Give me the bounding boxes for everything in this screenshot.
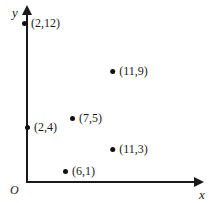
y-axis-line bbox=[26, 14, 28, 183]
data-point-label: (11,9) bbox=[119, 65, 148, 77]
x-axis-label: x bbox=[199, 188, 205, 201]
data-point-marker bbox=[70, 116, 75, 121]
data-point: (11,3) bbox=[110, 143, 148, 155]
data-point: (2,12) bbox=[22, 17, 60, 29]
x-axis-line bbox=[26, 181, 196, 183]
scatter-plot-figure: y x O (2,12) (11,9) (7,5) (2,4) (11,3) (… bbox=[0, 0, 218, 203]
data-point-label: (7,5) bbox=[79, 112, 102, 124]
data-point-marker bbox=[110, 147, 115, 152]
data-point-marker bbox=[63, 169, 68, 174]
data-point: (2,4) bbox=[25, 121, 57, 133]
y-axis-label: y bbox=[12, 6, 18, 19]
data-point-marker bbox=[25, 125, 30, 130]
origin-label: O bbox=[10, 184, 19, 196]
x-axis-arrowhead-icon bbox=[194, 177, 204, 187]
data-point: (11,9) bbox=[110, 65, 148, 77]
y-axis-arrowhead-icon bbox=[22, 5, 32, 15]
data-point: (7,5) bbox=[70, 112, 102, 124]
data-point-label: (2,4) bbox=[34, 121, 57, 133]
data-point-marker bbox=[110, 69, 115, 74]
data-point-label: (6,1) bbox=[72, 165, 95, 177]
data-point-label: (2,12) bbox=[31, 17, 60, 29]
data-point-label: (11,3) bbox=[119, 143, 148, 155]
data-point: (6,1) bbox=[63, 165, 95, 177]
data-point-marker bbox=[22, 21, 27, 26]
